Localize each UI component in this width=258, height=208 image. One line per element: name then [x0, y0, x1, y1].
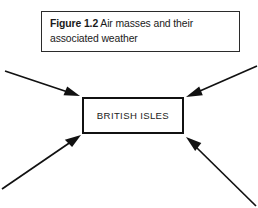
arrow-from-bottom-left [2, 135, 81, 189]
arrow-from-top-right-head [186, 87, 203, 97]
arrow-from-top-left [5, 71, 80, 96]
arrow-from-top-left-head [64, 87, 81, 96]
arrow-from-top-right [186, 66, 257, 97]
arrow-from-bottom-left-shaft [2, 143, 70, 190]
figure-diagram: Figure 1.2 Air masses and their associat… [0, 0, 258, 208]
arrow-from-bottom-right-shaft [196, 147, 256, 206]
british-isles-box: BRITISH ISLES [82, 97, 184, 134]
arrow-from-top-right-shaft [197, 66, 257, 92]
arrow-from-top-left-shaft [5, 71, 70, 93]
british-isles-label: BRITISH ISLES [97, 110, 169, 121]
arrow-from-bottom-right [186, 137, 256, 206]
